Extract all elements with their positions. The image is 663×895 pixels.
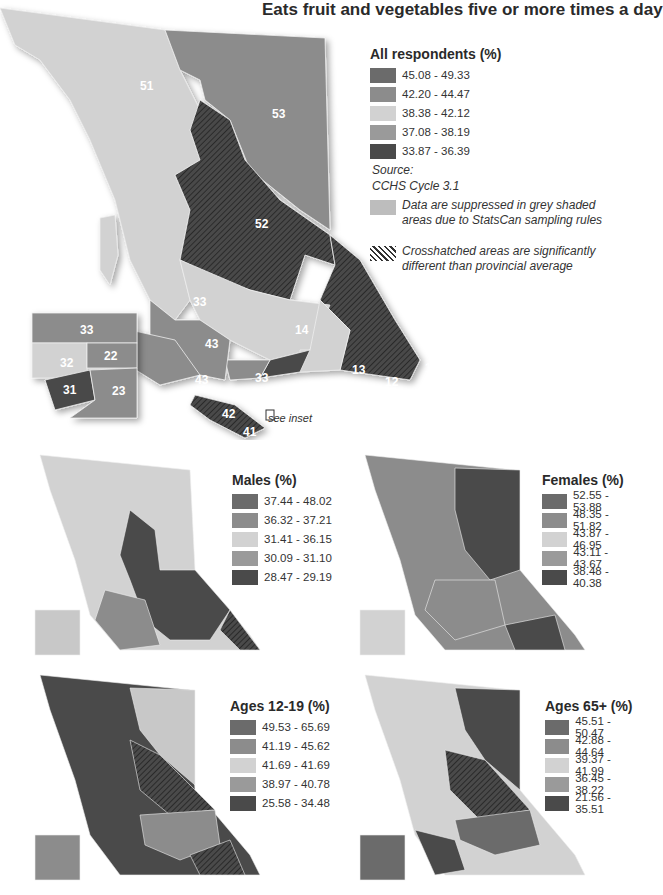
svg-text:31: 31 [63,383,77,397]
legend-label: 28.47 - 29.19 [264,571,332,583]
source-label: Source: [372,162,459,178]
svg-text:21: 21 [292,395,306,409]
swatch-class-4 [370,125,396,140]
svg-text:14: 14 [295,323,309,337]
swatch-class-3 [542,532,567,547]
swatch-class-1 [542,494,567,509]
swatch-class-2 [232,513,258,528]
legend-label: 33.87 - 36.39 [402,145,470,157]
swatch-class-2 [545,739,569,754]
swatch-class-3 [230,758,256,773]
suppressed-swatch [370,200,396,215]
legend-males: Males (%) 37.44 - 48.02 36.32 - 37.21 31… [232,472,332,587]
crosshatch-note-text: Crosshatched areas are significantly dif… [402,244,610,274]
legend-label: 42.20 - 44.47 [402,88,470,100]
svg-text:33: 33 [193,295,207,309]
swatch-class-4 [232,551,258,566]
legend-title: Males (%) [232,472,332,488]
legend-title: Ages 65+ (%) [545,698,638,714]
swatch-class-5 [232,570,258,585]
swatch-class-4 [230,777,256,792]
swatch-class-2 [370,87,396,102]
swatch-class-5 [542,570,567,585]
svg-text:33: 33 [255,371,269,385]
legend-label: 25.58 - 34.48 [262,797,330,809]
legend-label: 38.38 - 42.12 [402,107,470,119]
svg-text:51: 51 [140,79,154,93]
svg-text:42: 42 [222,407,236,421]
swatch-class-4 [545,777,569,792]
svg-text:23: 23 [112,384,126,398]
swatch-class-4 [542,551,567,566]
swatch-class-2 [230,739,256,754]
legend-title: Ages 12-19 (%) [230,698,330,714]
legend-label: 37.44 - 48.02 [264,495,332,507]
legend-label: 36.32 - 37.21 [264,514,332,526]
legend-females: Females (%) 52.55 - 53.88 48.35 - 51.82 … [542,472,638,587]
svg-text:13: 13 [352,363,366,377]
swatch-class-1 [370,68,396,83]
legend-label: 49.53 - 65.69 [262,721,330,733]
see-inset-label: see inset [268,412,312,424]
source-block: Source: CCHS Cycle 3.1 [372,162,459,194]
svg-text:43: 43 [205,337,219,351]
legend-title: All respondents (%) [370,46,501,62]
svg-text:43: 43 [195,373,209,387]
swatch-class-3 [545,758,569,773]
crosshatch-note: Crosshatched areas are significantly dif… [370,244,610,274]
swatch-class-5 [230,796,256,811]
swatch-class-3 [370,106,396,121]
svg-text:52: 52 [255,217,269,231]
legend-ages-65-plus: Ages 65+ (%) 45.51 - 50.47 42.88 - 44.64… [545,698,638,813]
svg-text:11: 11 [425,361,438,375]
swatch-class-3 [232,532,258,547]
crosshatch-swatch [370,246,396,261]
legend-label: 37.08 - 38.19 [402,126,470,138]
swatch-class-5 [545,796,569,811]
legend-label: 45.08 - 49.33 [402,69,470,81]
legend-all-respondents: All respondents (%) 45.08 - 49.33 42.20 … [370,46,501,161]
svg-text:12: 12 [385,375,399,389]
swatch-class-1 [230,720,256,735]
legend-label: 31.41 - 36.15 [264,533,332,545]
svg-text:32: 32 [60,356,74,370]
svg-text:22: 22 [104,349,118,363]
legend-label: 38.97 - 40.78 [262,778,330,790]
suppressed-note: Data are suppressed in grey shaded areas… [370,198,610,228]
svg-text:53: 53 [272,107,286,121]
suppressed-note-text: Data are suppressed in grey shaded areas… [402,198,610,228]
legend-label: 41.19 - 45.62 [262,740,330,752]
swatch-class-1 [545,720,569,735]
swatch-class-1 [232,494,258,509]
legend-label: 41.69 - 41.69 [262,759,330,771]
legend-label: 30.09 - 31.10 [264,552,332,564]
legend-label: 21.56 - 35.51 [575,791,638,815]
svg-text:41: 41 [243,425,257,439]
svg-text:33: 33 [80,323,94,337]
swatch-class-2 [542,513,567,528]
legend-ages-12-19: Ages 12-19 (%) 49.53 - 65.69 41.19 - 45.… [230,698,330,813]
legend-title: Females (%) [542,472,638,488]
source-value: CCHS Cycle 3.1 [372,178,459,194]
swatch-class-5 [370,144,396,159]
legend-label: 38.48 - 40.38 [573,565,638,589]
